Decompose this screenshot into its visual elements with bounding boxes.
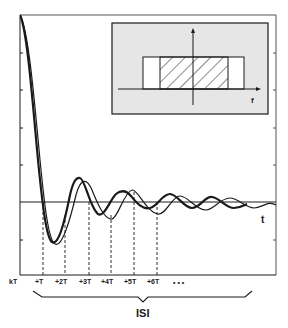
isi-diagram: t kT +T +2T +3T +4T +5T +6T • • • ISI f	[0, 0, 288, 328]
sample-label-kT: kT	[9, 278, 18, 285]
sample-label-T: +T	[35, 278, 44, 285]
sample-label-4T: +4T	[101, 278, 114, 285]
spectrum-hatched-band	[160, 57, 228, 89]
sample-label-3T: +3T	[79, 278, 92, 285]
sample-label-6T: +6T	[147, 278, 160, 285]
time-axis-label: t	[261, 214, 265, 225]
sample-labels: kT +T +2T +3T +4T +5T +6T • • •	[9, 278, 185, 286]
isi-brace	[33, 291, 252, 302]
sample-label-5T: +5T	[124, 278, 137, 285]
ellipsis: • • •	[173, 279, 185, 286]
inset-f-label: f	[251, 96, 254, 105]
frequency-inset: f	[112, 23, 268, 114]
sample-label-2T: +2T	[55, 278, 68, 285]
isi-label: ISI	[136, 307, 149, 319]
